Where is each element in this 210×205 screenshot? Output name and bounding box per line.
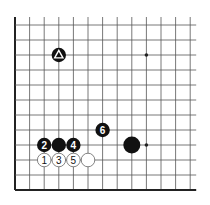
go-board: 624135	[0, 0, 210, 205]
move-number: 3	[56, 155, 62, 166]
black-stone-body	[52, 138, 66, 152]
stones: 624135	[37, 48, 140, 167]
white-stone	[81, 153, 95, 167]
move-number: 2	[41, 140, 47, 151]
move-number: 5	[71, 155, 77, 166]
black-stone-6: 6	[95, 123, 109, 137]
white-stone-3: 3	[52, 153, 66, 167]
move-number: 4	[71, 140, 77, 151]
black-stone-4: 4	[66, 138, 80, 152]
black-stone-body	[123, 137, 140, 154]
black-stone	[123, 137, 140, 154]
move-number: 1	[41, 155, 47, 166]
black-stone	[52, 138, 66, 152]
move-number: 6	[100, 125, 106, 136]
white-stone-body	[81, 153, 95, 167]
white-stone-1: 1	[37, 153, 51, 167]
star-point	[145, 143, 149, 147]
black-stone	[52, 48, 66, 62]
star-point	[145, 53, 149, 57]
black-stone-2: 2	[37, 138, 51, 152]
white-stone-5: 5	[67, 153, 81, 167]
